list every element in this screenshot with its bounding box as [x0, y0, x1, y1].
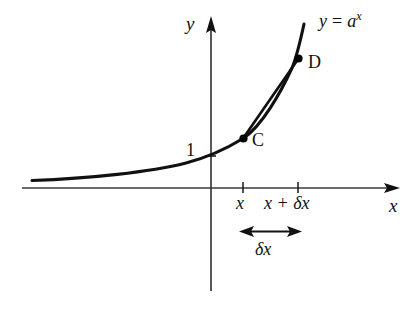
chord-c-to-d [243, 59, 299, 139]
y-intercept-label: 1 [186, 141, 195, 159]
equation-exponent: x [356, 9, 361, 23]
equation-operator: = [332, 11, 342, 31]
equation-base: a [347, 11, 356, 31]
curve-equation-label: y=ax [319, 12, 362, 30]
exponential-curve [32, 24, 304, 181]
diagram-canvas [0, 0, 415, 310]
x-tick-first-label: x [236, 194, 244, 212]
x-axis-label: x [389, 196, 397, 215]
point-c-label: C [252, 131, 264, 149]
x-tick-second-label: x + δx [264, 194, 310, 212]
delta-x-label: δx [255, 240, 271, 258]
point-c-marker [239, 134, 247, 142]
point-d-label: D [308, 53, 321, 71]
equation-lhs: y [319, 11, 327, 31]
y-axis-label: y [186, 14, 194, 33]
point-d-marker [294, 54, 302, 62]
exponential-curve-diagram: y x y=ax 1 C D x x + δx δx [0, 0, 415, 310]
